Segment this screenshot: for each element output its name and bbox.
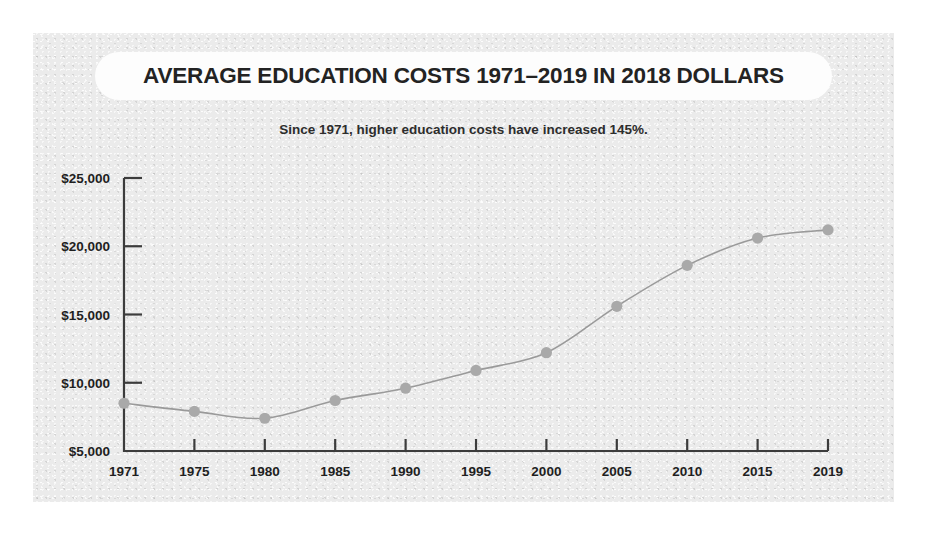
chart-svg	[0, 0, 927, 535]
data-point-marker[interactable]	[189, 406, 200, 417]
data-point-marker[interactable]	[611, 301, 622, 312]
y-axis-tick-label: $5,000	[0, 444, 110, 459]
data-point-marker[interactable]	[541, 347, 552, 358]
series-line	[124, 230, 828, 419]
x-axis-tick-label: 2019	[788, 464, 868, 479]
data-point-marker[interactable]	[470, 365, 481, 376]
x-axis-tick-label: 2010	[647, 464, 727, 479]
data-point-marker[interactable]	[259, 413, 270, 424]
axis-spine	[124, 178, 828, 451]
data-point-marker[interactable]	[330, 395, 341, 406]
y-axis-tick-label: $15,000	[0, 307, 110, 322]
data-point-marker[interactable]	[822, 224, 833, 235]
x-axis-tick-label: 1971	[84, 464, 164, 479]
chart-figure: AVERAGE EDUCATION COSTS 1971–2019 IN 201…	[0, 0, 927, 535]
x-axis-tick-label: 1975	[154, 464, 234, 479]
x-axis-tick-label: 1985	[295, 464, 375, 479]
data-point-marker[interactable]	[682, 260, 693, 271]
x-axis-tick-label: 2000	[506, 464, 586, 479]
data-point-marker[interactable]	[118, 398, 129, 409]
y-axis-tick-label: $25,000	[0, 171, 110, 186]
data-point-marker[interactable]	[400, 383, 411, 394]
plot-area: $5,000$10,000$15,000$20,000$25,000197119…	[0, 0, 927, 535]
y-axis-tick-label: $20,000	[0, 239, 110, 254]
x-axis-tick-label: 1980	[225, 464, 305, 479]
x-axis-tick-label: 2005	[577, 464, 657, 479]
data-point-marker[interactable]	[752, 232, 763, 243]
x-axis-tick-label: 1995	[436, 464, 516, 479]
x-axis-tick-label: 2015	[718, 464, 798, 479]
y-axis-tick-label: $10,000	[0, 375, 110, 390]
x-axis-tick-label: 1990	[366, 464, 446, 479]
